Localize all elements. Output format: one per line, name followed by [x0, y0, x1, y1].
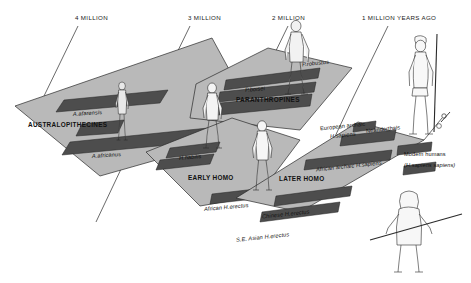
- timeline-label-3-million: 3 MILLION: [188, 14, 221, 21]
- label-early-homo: EARLY HOMO: [188, 175, 234, 182]
- timeline-tick-line-4m: [44, 26, 78, 96]
- modern-human-figure: [409, 34, 450, 134]
- timeline-tick-line-1m: [352, 26, 388, 100]
- timeline-label-2-million: 2 MILLION: [272, 14, 305, 21]
- label-modern-humans: Modern humans: [404, 152, 446, 158]
- later-homo-edge-line: [424, 118, 442, 140]
- label-australopithecines: AUSTRALOPITHECINES: [28, 122, 107, 129]
- neanderthal-figure: [370, 191, 462, 272]
- label-paranthropines: PARANTHROPINES: [236, 97, 300, 104]
- timeline-label-1-million-years-ago: 1 MILLION YEARS AGO: [362, 14, 436, 21]
- label-modern-humans-binomial: (H.sapiens sapiens): [404, 163, 455, 169]
- timeline-label-4-million: 4 MILLION: [75, 14, 108, 21]
- label-later-homo: LATER HOMO: [279, 176, 324, 183]
- human-evolution-diagram: 4 MILLION 3 MILLION 2 MILLION 1 MILLION …: [0, 0, 471, 283]
